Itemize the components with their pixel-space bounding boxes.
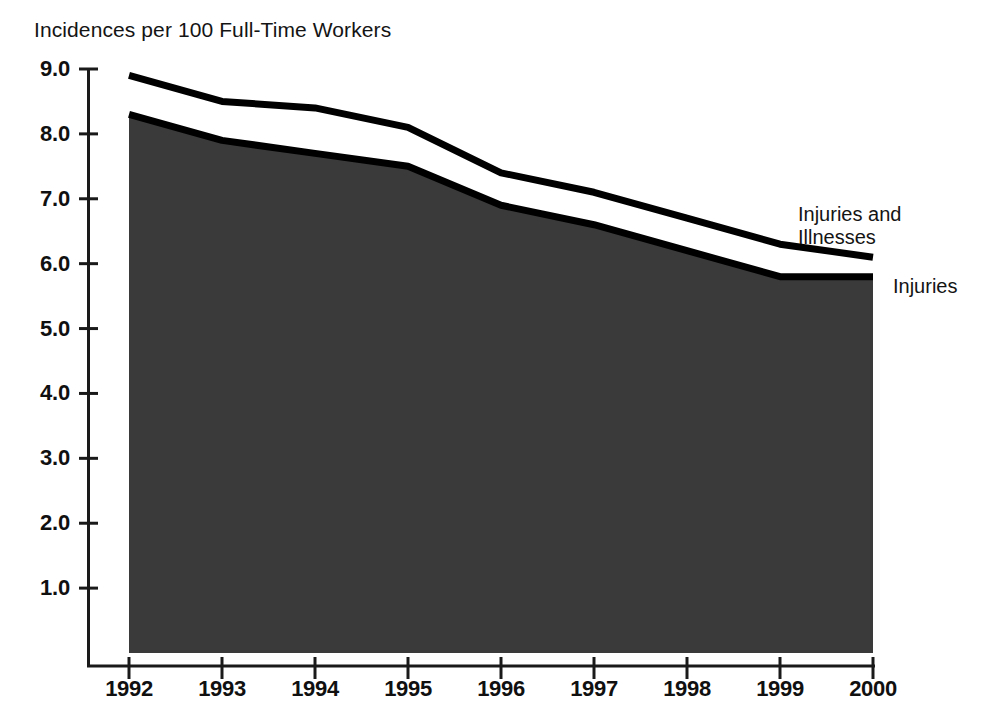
x-tick-label-2000: 2000 xyxy=(849,676,897,702)
area-fill-injuries xyxy=(129,114,873,653)
x-tick-label-1995: 1995 xyxy=(384,676,432,702)
x-tick-label-1997: 1997 xyxy=(570,676,618,702)
y-tick-label-4.0: 4.0 xyxy=(12,380,70,406)
chart-plot-area xyxy=(0,0,983,711)
x-tick-label-1998: 1998 xyxy=(663,676,711,702)
x-tick-label-1994: 1994 xyxy=(291,676,339,702)
x-tick-label-1999: 1999 xyxy=(756,676,804,702)
series-label-injuries: Injuries xyxy=(893,275,957,298)
y-tick-label-2.0: 2.0 xyxy=(12,510,70,536)
chart-container: Incidences per 100 Full-Time Workers 9.0… xyxy=(0,0,983,711)
y-tick-label-8.0: 8.0 xyxy=(12,121,70,147)
series-label-injuries-and-illnesses: Injuries and Illnesses xyxy=(798,203,901,249)
y-tick-label-7.0: 7.0 xyxy=(12,186,70,212)
x-tick-label-1992: 1992 xyxy=(105,676,153,702)
y-tick-label-3.0: 3.0 xyxy=(12,445,70,471)
x-tick-label-1993: 1993 xyxy=(198,676,246,702)
x-tick-label-1996: 1996 xyxy=(477,676,525,702)
y-tick-label-9.0: 9.0 xyxy=(12,56,70,82)
y-tick-label-6.0: 6.0 xyxy=(12,251,70,277)
y-tick-label-1.0: 1.0 xyxy=(12,575,70,601)
y-axis-tick-labels: 9.08.07.06.05.04.03.02.01.0 xyxy=(8,0,70,711)
y-tick-label-5.0: 5.0 xyxy=(12,316,70,342)
